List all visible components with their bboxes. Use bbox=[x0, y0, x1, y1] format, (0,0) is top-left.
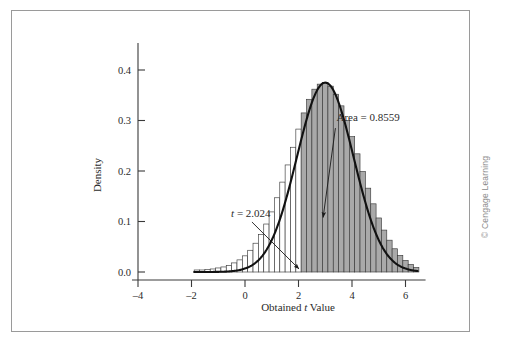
area-annotation-label: Area = 0.8559 bbox=[336, 111, 400, 123]
y-axis-tick-label: 0.4 bbox=[118, 65, 132, 76]
y-axis-title: Density bbox=[91, 157, 103, 192]
t-critical-annotation-label: t = 2.024 bbox=[231, 207, 271, 219]
histogram-bar bbox=[307, 99, 312, 272]
x-axis-tick-label: 4 bbox=[349, 290, 355, 301]
x-axis-tick-label: –2 bbox=[185, 290, 197, 301]
histogram-bar bbox=[403, 260, 408, 272]
x-axis-tick-label: –4 bbox=[132, 290, 144, 301]
histogram-bar bbox=[253, 243, 258, 272]
annotation-prefix: Area = bbox=[336, 111, 369, 123]
y-axis-tick-label: 0.1 bbox=[118, 216, 131, 227]
histogram-bar bbox=[274, 198, 279, 272]
x-axis-tick-label: 6 bbox=[403, 290, 408, 301]
histogram-bar bbox=[258, 235, 263, 272]
histogram-bar bbox=[317, 84, 322, 272]
histogram-bar bbox=[323, 83, 328, 272]
x-axis-title-suffix: Value bbox=[307, 301, 335, 313]
chart-plot-area: 0.00.10.20.30.4–4–20246 Area = 0.8559t =… bbox=[0, 0, 511, 350]
x-axis-tick-label: 0 bbox=[242, 290, 247, 301]
histogram-bar bbox=[371, 204, 376, 272]
copyright-notice: © Cengage Learning bbox=[480, 156, 490, 238]
x-axis-title-prefix: Obtained bbox=[261, 301, 304, 313]
x-axis-title: Obtained t Value bbox=[261, 301, 335, 313]
x-axis-tick-label: 2 bbox=[296, 290, 301, 301]
annotation-value: 0.8559 bbox=[370, 111, 401, 123]
histogram-bar bbox=[344, 121, 349, 273]
histogram-bar bbox=[312, 89, 317, 272]
histogram-bar bbox=[365, 188, 370, 272]
y-axis-tick-label: 0.3 bbox=[118, 115, 131, 126]
histogram-bar bbox=[248, 250, 253, 272]
density-histogram-chart: 0.00.10.20.30.4–4–20246 Area = 0.8559t =… bbox=[0, 0, 511, 350]
histogram-bar bbox=[339, 106, 344, 272]
y-axis-tick-label: 0.2 bbox=[118, 166, 131, 177]
y-axis-tick-label: 0.0 bbox=[118, 267, 131, 278]
histogram-bar bbox=[280, 182, 285, 272]
histogram-bar bbox=[397, 255, 402, 272]
annotation-value: = 2.024 bbox=[234, 207, 271, 219]
